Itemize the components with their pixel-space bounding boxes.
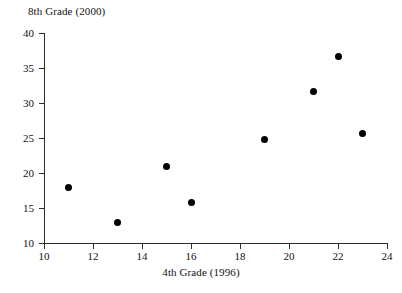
page-title: 8th Grade (2000) xyxy=(28,5,105,18)
x-axis-tick-label: 10 xyxy=(29,250,59,262)
y-axis-tick-label: 30 xyxy=(0,98,34,109)
y-axis-tick-label: 35 xyxy=(0,63,34,74)
x-axis-tick xyxy=(338,244,339,249)
data-point xyxy=(335,53,342,60)
data-point xyxy=(188,199,195,206)
y-axis-tick-label: 25 xyxy=(0,133,34,144)
data-point xyxy=(310,88,317,95)
x-axis-tick xyxy=(44,244,45,249)
plot-area xyxy=(44,33,387,243)
x-axis-tick xyxy=(240,244,241,249)
y-axis-tick-label: 20 xyxy=(0,168,34,179)
x-axis-tick xyxy=(142,244,143,249)
y-axis-tick-label: 40 xyxy=(0,28,34,39)
data-point xyxy=(114,219,121,226)
x-axis-tick xyxy=(93,244,94,249)
x-axis-tick-label: 16 xyxy=(176,250,206,262)
x-axis-tick-label: 24 xyxy=(372,250,402,262)
x-axis-tick-label: 18 xyxy=(225,250,255,262)
x-axis-tick xyxy=(289,244,290,249)
x-axis-tick-label: 22 xyxy=(323,250,353,262)
data-point xyxy=(65,184,72,191)
data-point xyxy=(261,136,268,143)
x-axis-tick-label: 20 xyxy=(274,250,304,262)
x-axis-label: 4th Grade (1996) xyxy=(0,266,402,279)
data-point xyxy=(359,130,366,137)
x-axis-tick-label: 12 xyxy=(78,250,108,262)
y-axis-tick-label: 15 xyxy=(0,203,34,214)
scatter-plot-figure: 8th Grade (2000) 10152025303540 10121416… xyxy=(0,0,402,293)
y-axis-tick-label: 10 xyxy=(0,238,34,249)
x-axis-tick xyxy=(191,244,192,249)
x-axis-tick-label: 14 xyxy=(127,250,157,262)
x-axis-tick xyxy=(387,244,388,249)
x-axis-line xyxy=(44,243,388,244)
data-point xyxy=(163,163,170,170)
